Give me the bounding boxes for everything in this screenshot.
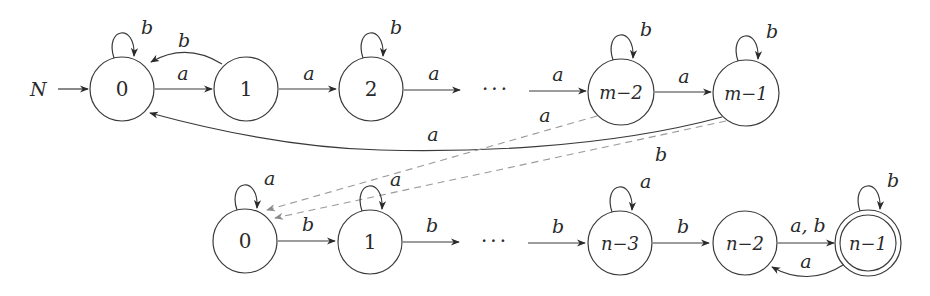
self-loop-bottom-0 — [235, 185, 257, 210]
self-loop-bottom-n-3 — [610, 187, 632, 212]
automaton-diagram: N 0 b 1 a b 2 b a a ··· a m−2 b a m−1 — [0, 0, 930, 296]
self-loop-label: a — [264, 167, 275, 189]
state-label: n−1 — [849, 233, 887, 254]
state-label: 1 — [364, 230, 377, 254]
state-top-0: 0 — [90, 57, 154, 121]
edge-label: b — [677, 215, 689, 237]
edge-label: b — [426, 214, 438, 236]
edge-label: a — [800, 250, 811, 272]
edge-label: a — [177, 62, 188, 84]
edge-label: a — [678, 65, 689, 87]
state-bottom-0: 0 — [213, 209, 277, 273]
edge-label: a — [427, 123, 438, 145]
self-loop-label: b — [141, 16, 153, 38]
state-bottom-n-3: n−3 — [588, 211, 652, 275]
state-label: n−3 — [601, 233, 639, 254]
state-top-m-1: m−1 — [713, 60, 779, 126]
edge-label: a — [539, 104, 550, 126]
self-loop-top-2 — [361, 33, 383, 58]
edge-label: b — [552, 215, 564, 237]
edge-label: b — [655, 143, 667, 165]
edge-label: a, b — [790, 214, 826, 236]
self-loop-top-m-1 — [736, 36, 758, 61]
state-bottom-1: 1 — [338, 210, 402, 274]
self-loop-bottom-n-1 — [858, 186, 880, 211]
self-loop-label: a — [640, 170, 651, 192]
self-loop-bottom-1 — [360, 186, 382, 211]
self-loop-label: b — [887, 169, 899, 191]
self-loop-top-m-2 — [611, 35, 633, 60]
self-loop-label: b — [640, 18, 652, 40]
self-loop-label: b — [390, 16, 402, 38]
edge-tm1-b0 — [275, 121, 726, 218]
state-label: 1 — [240, 77, 253, 101]
self-loop-label: b — [766, 20, 778, 42]
start-label: N — [29, 78, 48, 100]
state-top-m-2: m−2 — [588, 59, 654, 125]
state-top-2: 2 — [339, 57, 403, 121]
state-label: 0 — [239, 229, 252, 253]
self-loop-top-0 — [112, 33, 134, 58]
edge-label: a — [303, 62, 314, 84]
state-label: m−2 — [599, 82, 643, 103]
edge-label: a — [552, 63, 563, 85]
edge-label: b — [178, 29, 190, 51]
state-label: m−1 — [724, 83, 768, 104]
state-label: 0 — [116, 77, 129, 101]
edge-label: a — [428, 62, 439, 84]
state-label: 2 — [365, 77, 378, 101]
ellipsis-top: ··· — [482, 77, 510, 101]
state-label: n−2 — [726, 233, 764, 254]
state-bottom-n-2: n−2 — [713, 211, 777, 275]
state-bottom-n-1-accepting: n−1 — [835, 210, 901, 276]
ellipsis-bottom: ··· — [481, 229, 509, 253]
self-loop-label: a — [390, 168, 401, 190]
edge-label: b — [302, 213, 314, 235]
state-top-1: 1 — [214, 57, 278, 121]
